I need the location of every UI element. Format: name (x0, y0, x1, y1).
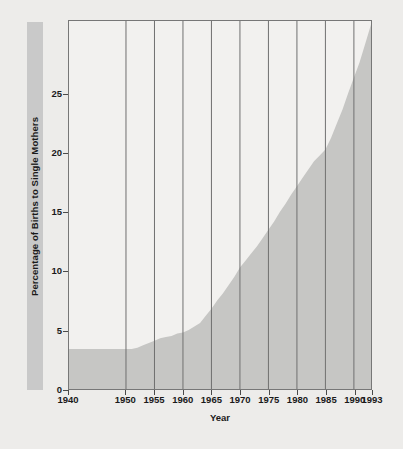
y-tick-label: 25 (44, 89, 62, 99)
chart-figure: Percentage of Births to Single Mothers 0… (0, 0, 403, 449)
y-tick-label: 5 (44, 326, 62, 336)
y-tick-label: 20 (44, 148, 62, 158)
x-tick-label: 1940 (48, 394, 88, 405)
y-axis-title-text: Percentage of Births to Single Mothers (30, 116, 41, 295)
x-tick-label: 1993 (352, 394, 392, 405)
plot-area (68, 20, 372, 390)
y-tick-label: 15 (44, 207, 62, 217)
chart-svg (69, 21, 371, 389)
x-axis-title: Year (68, 412, 372, 423)
y-tick-label: 10 (44, 266, 62, 276)
y-axis-title: Percentage of Births to Single Mothers (27, 22, 43, 390)
